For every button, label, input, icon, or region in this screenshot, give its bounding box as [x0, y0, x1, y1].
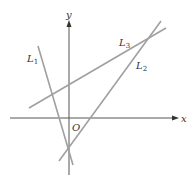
- line-l2: [59, 21, 161, 161]
- y-axis-label: y: [65, 9, 72, 20]
- y-axis-arrow-icon: [67, 20, 72, 27]
- label-l1: L1: [26, 53, 38, 66]
- label-l2: L2: [135, 60, 147, 73]
- origin-label: O: [72, 122, 80, 133]
- x-axis: [10, 116, 179, 121]
- diagram-canvas: y x O L1 L2 L3: [0, 0, 192, 179]
- label-l3: L3: [118, 37, 130, 50]
- x-axis-label: x: [181, 113, 187, 124]
- x-axis-arrow-icon: [172, 116, 179, 121]
- line-l1: [38, 46, 73, 165]
